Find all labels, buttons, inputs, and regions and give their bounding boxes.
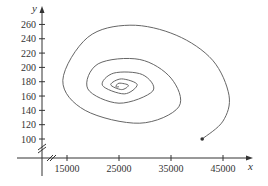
x-axis-label: x: [247, 160, 253, 172]
spiral-phase-plot: x y 100120140160180200220240260 15000250…: [0, 0, 268, 186]
y-axis-label: y: [31, 2, 37, 14]
x-tick-label: 15000: [55, 163, 80, 174]
y-tick-label: 220: [21, 48, 36, 59]
y-tick-label: 160: [21, 91, 36, 102]
x-tick-label: 35000: [159, 163, 184, 174]
start-point-marker: [200, 137, 204, 141]
y-tick-label: 180: [21, 76, 36, 87]
spiral-trajectory: [63, 25, 230, 139]
x-tick-label: 25000: [107, 163, 132, 174]
y-tick-label: 240: [21, 33, 36, 44]
y-tick-label: 200: [21, 62, 36, 73]
y-tick-label: 120: [21, 119, 36, 130]
y-axis-arrow-icon: [40, 6, 45, 13]
y-tick-label: 260: [21, 19, 36, 30]
y-ticks: 100120140160180200220240260: [21, 19, 45, 145]
x-tick-label: 45000: [211, 163, 236, 174]
y-tick-label: 140: [21, 105, 36, 116]
y-tick-label: 100: [21, 134, 36, 145]
